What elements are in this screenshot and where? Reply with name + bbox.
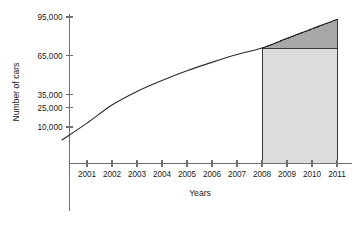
x-tick-label: 2010 xyxy=(303,170,322,179)
chart-figure: 95,00065,00035,00025,00010,000 200120022… xyxy=(0,0,363,230)
y-tick-label: 95,000 xyxy=(37,13,62,22)
y-axis-ticks: 95,00065,00035,00025,00010,000 xyxy=(37,13,73,132)
x-tick-label: 2009 xyxy=(278,170,297,179)
cars-growth-line-chart: 95,00065,00035,00025,00010,000 200120022… xyxy=(0,0,363,230)
x-tick-label: 2011 xyxy=(328,170,346,179)
x-tick-label: 2003 xyxy=(128,170,147,179)
y-tick-label: 35,000 xyxy=(37,91,62,100)
y-axis-title: Number of cars xyxy=(11,63,21,122)
y-tick-label: 65,000 xyxy=(37,52,62,61)
shaded-regions xyxy=(262,20,337,164)
x-tick-label: 2006 xyxy=(203,170,222,179)
shaded-rectangle-region xyxy=(262,48,337,163)
y-tick-label: 25,000 xyxy=(37,104,62,113)
x-axis-title: Years xyxy=(189,188,211,198)
x-tick-label: 2002 xyxy=(103,170,122,179)
x-tick-label: 2008 xyxy=(253,170,272,179)
y-tick-label: 10,000 xyxy=(37,123,62,132)
x-tick-label: 2007 xyxy=(228,170,247,179)
x-tick-label: 2005 xyxy=(178,170,197,179)
x-tick-label: 2004 xyxy=(153,170,172,179)
x-tick-label: 2001 xyxy=(78,170,97,179)
